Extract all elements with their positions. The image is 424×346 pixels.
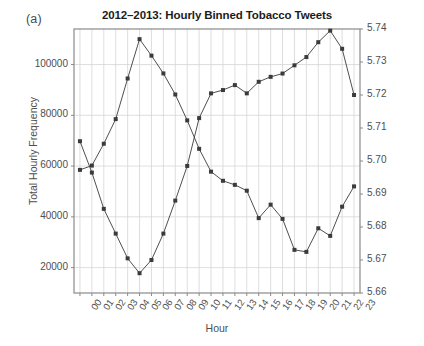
y-axis-label-left: Total Hourly Frequency: [27, 71, 39, 231]
y-tick-right: 5.68: [367, 220, 386, 231]
y-tick-right: 5.69: [367, 187, 386, 198]
y-tick-left: 80000: [40, 108, 68, 119]
x-axis-label: Hour: [74, 322, 360, 334]
y-tick-right: 5.71: [367, 121, 386, 132]
y-tick-left: 20000: [40, 261, 68, 272]
y-tick-right: 5.66: [367, 286, 386, 297]
y-tick-left: 100000: [35, 58, 68, 69]
y-tick-right: 5.74: [367, 22, 386, 33]
y-tick-right: 5.72: [367, 88, 386, 99]
panel-label: (a): [26, 12, 42, 26]
plot-frame: [74, 29, 360, 293]
grid-horizontal: [74, 65, 360, 268]
series-2: [78, 29, 356, 276]
y-tick-left: 60000: [40, 159, 68, 170]
y-tick-left: 40000: [40, 210, 68, 221]
y-tick-right: 5.70: [367, 154, 386, 165]
y-tick-right: 5.73: [367, 55, 386, 66]
series-1: [78, 37, 356, 254]
plot-area: [0, 0, 424, 346]
chart-title: 2012–2013: Hourly Binned Tobacco Tweets: [74, 9, 360, 21]
y-tick-right: 5.67: [367, 253, 386, 264]
grid-vertical: [80, 29, 354, 293]
figure-container: (a) 2012–2013: Hourly Binned Tobacco Twe…: [0, 0, 424, 346]
